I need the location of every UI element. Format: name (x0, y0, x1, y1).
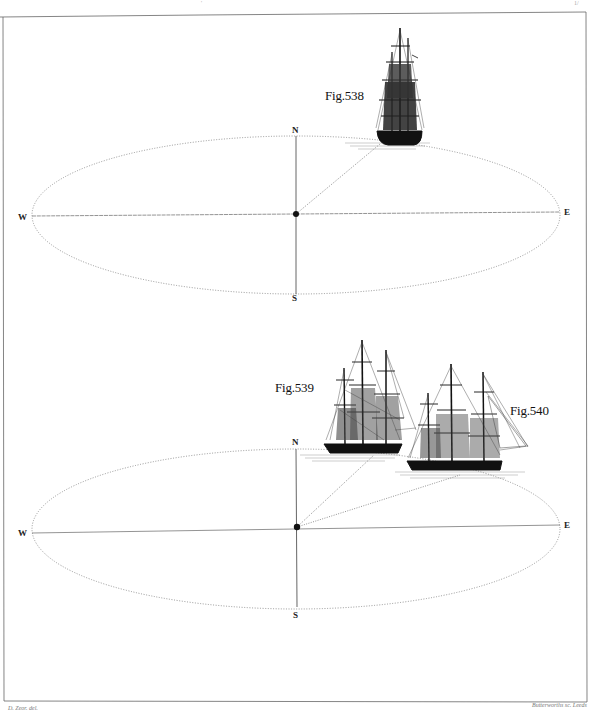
sight-line-fig538 (296, 144, 380, 214)
observer-point-bottom (294, 524, 300, 530)
observer-point-top (293, 211, 299, 217)
figure-label-538: Fig.538 (325, 89, 364, 102)
compass-east-top: E (564, 208, 570, 217)
plate-border (0, 12, 587, 702)
sight-line-fig540 (297, 475, 460, 527)
ship-fig539 (300, 340, 416, 461)
compass-north-top: N (292, 126, 299, 135)
compass-east-bottom: E (564, 521, 570, 530)
compass-north-bottom: N (292, 438, 299, 447)
credit-engraver: Butterworths sc. Leeds (532, 702, 587, 708)
credit-draughtsman: D. Zeor. del. (8, 705, 38, 711)
compass-south-top: S (292, 294, 297, 303)
diagram-top (32, 28, 560, 294)
page-mark-top-right: 1/ (574, 0, 579, 6)
sight-line-fig539 (297, 455, 374, 527)
page-mark-top-center: ' (201, 0, 202, 6)
figure-label-539: Fig.539 (275, 381, 314, 394)
figure-label-540: Fig.540 (510, 404, 549, 417)
ship-fig540 (395, 364, 528, 478)
compass-west-bottom: W (18, 529, 27, 538)
compass-west-top: W (18, 213, 27, 222)
compass-south-bottom: S (293, 611, 298, 620)
engraved-plate (0, 0, 596, 714)
